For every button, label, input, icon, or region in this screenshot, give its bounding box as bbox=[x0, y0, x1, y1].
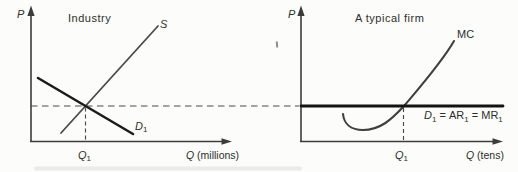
economics-figure: P Industry S D1 Q1 Q (millions) P A typi… bbox=[0, 0, 518, 172]
y-axis-label-right: P bbox=[288, 8, 296, 20]
price-line-label: D1 = AR1 = MR1 bbox=[424, 109, 503, 124]
y-axis-arrowhead-left-icon bbox=[27, 6, 34, 17]
supply-curve bbox=[61, 26, 158, 133]
y-axis-label-left: P bbox=[17, 8, 25, 20]
x-axis-arrowhead-left-icon bbox=[222, 138, 233, 145]
demand-curve-label: D1 bbox=[135, 120, 148, 135]
q1-tick-label-right: Q1 bbox=[395, 149, 409, 164]
y-axis-arrowhead-right-icon bbox=[297, 6, 304, 17]
supply-curve-label: S bbox=[160, 18, 168, 30]
q1-tick-label-left: Q1 bbox=[78, 149, 92, 164]
scan-caption-smudge bbox=[34, 167, 302, 171]
figure-canvas: P Industry S D1 Q1 Q (millions) P A typi… bbox=[0, 0, 518, 172]
demand-curve bbox=[38, 78, 133, 134]
panel-title-industry: Industry bbox=[68, 12, 111, 24]
x-axis-label-left: Q (millions) bbox=[186, 149, 239, 161]
x-axis-label-right: Q (tens) bbox=[466, 149, 504, 161]
panel-industry: P Industry S D1 Q1 Q (millions) bbox=[17, 6, 299, 164]
x-axis-arrowhead-right-icon bbox=[493, 138, 504, 145]
panel-title-typical-firm: A typical firm bbox=[355, 12, 424, 24]
panel-typical-firm: P A typical firm MC D1 = AR1 = MR1 Q1 Q … bbox=[288, 6, 504, 164]
mc-curve-label: MC bbox=[457, 28, 474, 40]
